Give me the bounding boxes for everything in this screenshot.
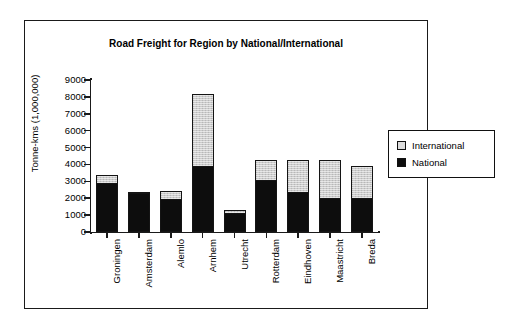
bar-arnhem xyxy=(192,94,214,232)
y-axis-tick-label: 5000 xyxy=(44,143,86,152)
x-axis-tick xyxy=(106,232,108,238)
bar-amsterdam xyxy=(128,192,150,232)
bar-segment-international xyxy=(351,166,373,199)
x-axis-tick xyxy=(297,232,299,238)
y-axis-tick-label: 4000 xyxy=(44,159,86,168)
bar-segment-national xyxy=(224,214,246,232)
bar-breda xyxy=(351,166,373,232)
bar-segment-international xyxy=(192,94,214,167)
bar-segment-national xyxy=(160,200,182,232)
bar-segment-national xyxy=(287,193,309,232)
bar-segment-national xyxy=(192,167,214,232)
legend: International National xyxy=(388,130,495,178)
plot-area xyxy=(91,80,378,232)
y-axis-tick-label: 6000 xyxy=(44,126,86,135)
x-axis-tick xyxy=(138,232,140,238)
bar-segment-national xyxy=(255,181,277,232)
x-axis-label-rotterdam: Rotterdam xyxy=(270,239,281,283)
y-axis-tick-label: 0 xyxy=(44,227,86,236)
y-axis-tick-label: 3000 xyxy=(44,176,86,185)
legend-label-national: National xyxy=(412,158,447,168)
x-axis-tick xyxy=(170,232,172,238)
y-axis-label: Tonne-kms (1,000,000) xyxy=(29,44,40,204)
y-axis-tick-label: 8000 xyxy=(44,92,86,101)
bar-segment-national xyxy=(96,184,118,232)
y-axis-tick-label: 2000 xyxy=(44,193,86,202)
bar-segment-national xyxy=(351,199,373,232)
x-axis-label-breda: Breda xyxy=(366,239,377,264)
x-axis-label-eindhoven: Eindhoven xyxy=(302,239,313,284)
x-axis-label-maastricht: Maastricht xyxy=(334,239,345,283)
x-axis-tick xyxy=(329,232,331,238)
bar-segment-national xyxy=(319,199,341,232)
x-axis-tick xyxy=(202,232,204,238)
y-axis-tick-label: 7000 xyxy=(44,109,86,118)
bar-segment-international xyxy=(96,175,118,184)
bar-groningen xyxy=(96,175,118,232)
x-axis-tick xyxy=(266,232,268,238)
y-axis-tick-labels: 9000800070006000500040003000200010000 xyxy=(42,0,86,325)
legend-item-national: National xyxy=(397,154,494,171)
x-axis-label-utrecht: Utrecht xyxy=(239,239,250,270)
legend-label-international: International xyxy=(412,141,464,151)
bar-alemlo xyxy=(160,191,182,232)
bar-segment-international xyxy=(287,160,309,193)
national-swatch-icon xyxy=(397,158,406,167)
bar-segment-national xyxy=(128,194,150,232)
legend-item-international: International xyxy=(397,137,494,154)
x-axis-tick xyxy=(234,232,236,238)
bar-maastricht xyxy=(319,160,341,232)
bar-segment-international xyxy=(255,160,277,181)
bar-utrecht xyxy=(224,210,246,232)
y-axis-tick-label: 9000 xyxy=(44,75,86,84)
international-swatch-icon xyxy=(397,141,406,150)
bar-segment-international xyxy=(160,191,182,200)
x-axis-tick xyxy=(361,232,363,238)
chart-screenshot: Road Freight for Region by National/Inte… xyxy=(0,0,514,325)
bar-eindhoven xyxy=(287,160,309,232)
x-axis-label-groningen: Groningen xyxy=(111,239,122,283)
x-axis-label-alemlo: Alemlo xyxy=(175,239,186,268)
bar-rotterdam xyxy=(255,160,277,232)
y-axis-tick-label: 1000 xyxy=(44,210,86,219)
x-axis-label-amsterdam: Amsterdam xyxy=(143,239,154,288)
x-axis-label-arnhem: Arnhem xyxy=(207,239,218,272)
bar-segment-international xyxy=(319,160,341,199)
